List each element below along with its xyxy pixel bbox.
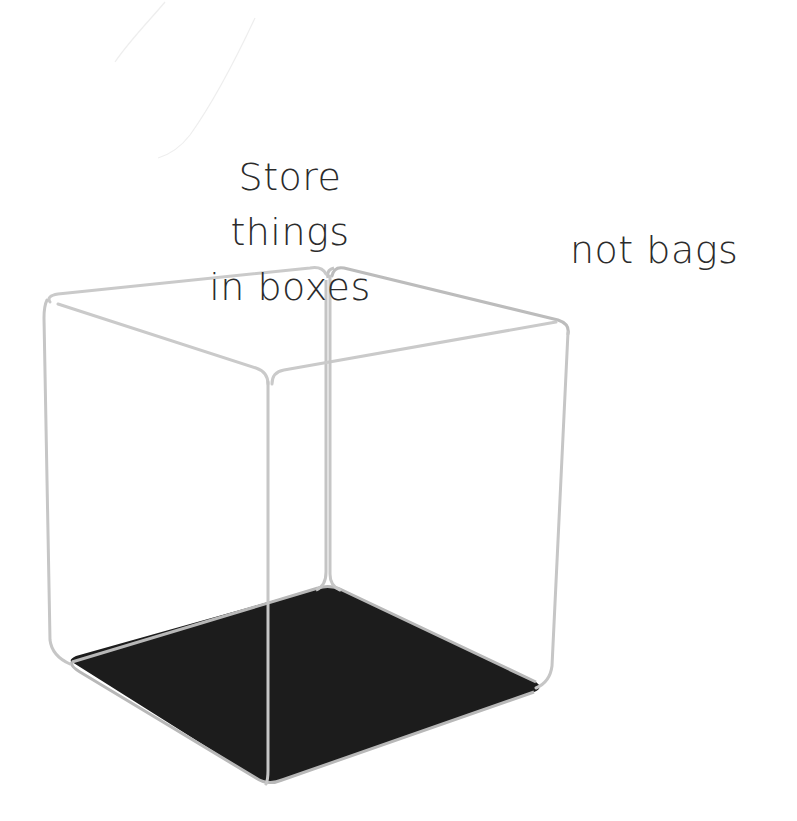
illustration-canvas: Store things in boxes not bags (0, 0, 797, 821)
cube-illustration (0, 0, 797, 821)
caption-side: not bags (570, 225, 738, 275)
caption-main: Store things in boxes (190, 150, 390, 315)
caption-main-line-2: things (190, 205, 390, 260)
faint-strokes-decoration (115, 2, 255, 158)
cube-floor (71, 586, 540, 782)
caption-main-line-3: in boxes (190, 260, 390, 315)
caption-main-line-1: Store (190, 150, 390, 205)
